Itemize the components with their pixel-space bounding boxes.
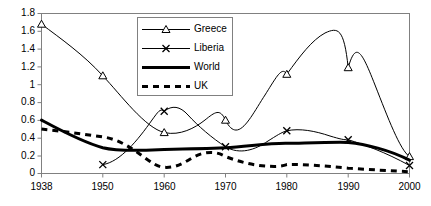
x-tick-label-1960: 1960 <box>144 182 185 192</box>
legend-swatch-liberia <box>140 40 192 57</box>
y-tick-label-1.8: 1.8 <box>0 8 35 18</box>
x-tick-label-2000: 2000 <box>389 182 430 192</box>
x-tick-label-1950: 1950 <box>82 182 123 192</box>
line-chart: 1.8 1.6 1.4 1.2 1 0.8 0.6 0.4 0.2 0 1938… <box>0 0 431 206</box>
y-tick-label-1.6: 1.6 <box>0 26 35 36</box>
x-axis-ticks <box>42 174 410 178</box>
y-tick-label-0.2: 0.2 <box>0 151 35 161</box>
y-tick-label-0.6: 0.6 <box>0 115 35 125</box>
y-tick-label-0.8: 0.8 <box>0 97 35 107</box>
legend-label-liberia: Liberia <box>194 42 224 54</box>
legend-swatch-uk <box>140 78 192 95</box>
y-axis-ticks <box>38 14 42 174</box>
legend-item-uk[interactable]: UK <box>138 78 234 95</box>
y-tick-label-1.4: 1.4 <box>0 44 35 54</box>
y-tick-label-0.4: 0.4 <box>0 133 35 143</box>
x-tick-label-1970: 1970 <box>205 182 246 192</box>
legend-item-liberia[interactable]: Liberia <box>138 40 234 57</box>
legend-swatch-world <box>140 59 192 76</box>
legend-label-world: World <box>194 61 220 73</box>
y-tick-label-1: 1 <box>0 80 35 90</box>
y-tick-label-1.2: 1.2 <box>0 62 35 72</box>
chart-legend: Greece Liberia World UK <box>137 17 233 96</box>
x-tick-label-1938: 1938 <box>21 182 62 192</box>
legend-swatch-greece <box>140 21 192 38</box>
x-tick-label-1980: 1980 <box>266 182 307 192</box>
y-tick-label-0: 0 <box>0 168 35 178</box>
legend-item-greece[interactable]: Greece <box>138 21 234 38</box>
legend-label-uk: UK <box>194 80 208 92</box>
legend-label-greece: Greece <box>194 23 227 35</box>
x-tick-label-1990: 1990 <box>328 182 369 192</box>
legend-item-world[interactable]: World <box>138 59 234 76</box>
